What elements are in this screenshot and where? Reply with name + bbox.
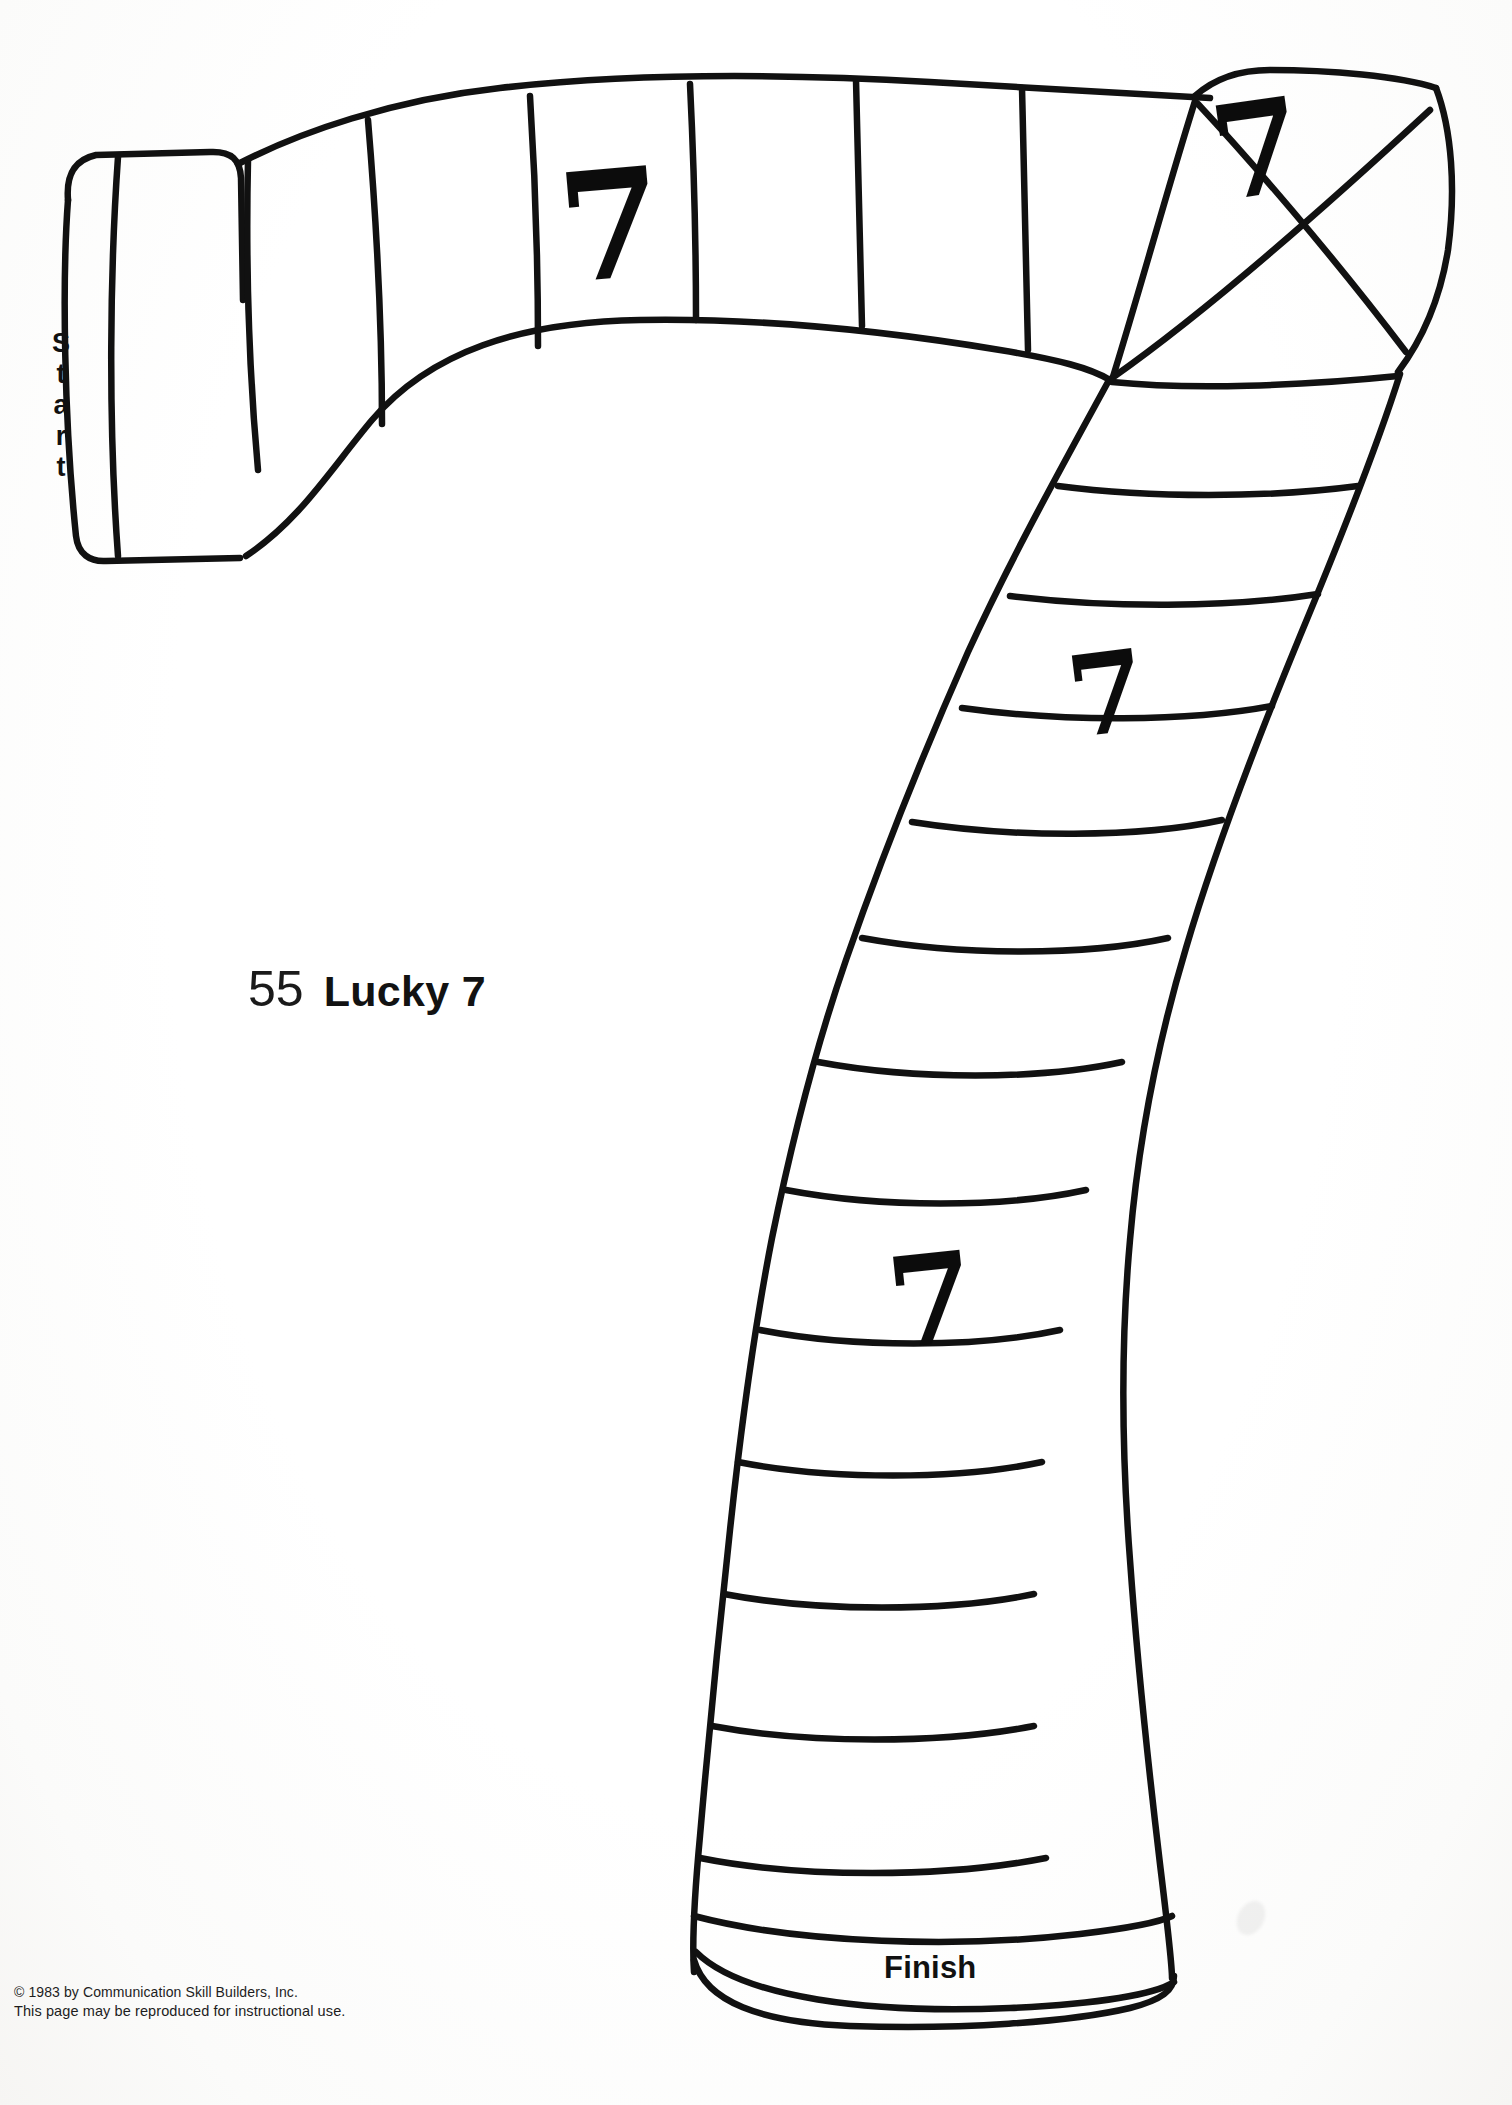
start-letter-2: t <box>57 361 66 392</box>
start-label: S t a r t <box>52 330 70 485</box>
rung-right-10 <box>738 1462 1042 1476</box>
rung-top-3 <box>690 84 696 320</box>
reproduction-notice: This page may be reproduced for instruct… <box>14 2002 345 2021</box>
page-number: 55 <box>248 960 304 1018</box>
top-band-lower-edge <box>246 320 1110 556</box>
rung-finish-line <box>694 1916 1172 1942</box>
rung-right-13 <box>700 1858 1046 1873</box>
start-tab-inner-line-2 <box>247 160 258 470</box>
rung-right-11 <box>724 1594 1034 1608</box>
rung-right-5 <box>912 820 1222 834</box>
rung-right-6 <box>862 938 1168 952</box>
rung-right-12 <box>712 1726 1034 1740</box>
rung-right-1 <box>1112 376 1398 386</box>
start-letter-1: S <box>52 330 70 361</box>
start-letter-4: r <box>56 423 67 454</box>
lucky-seven-marker-1: 7 <box>553 146 670 305</box>
rung-right-2 <box>1058 486 1358 495</box>
rung-top-2 <box>530 96 538 346</box>
copyright-notice: © 1983 by Communication Skill Builders, … <box>14 1983 345 2002</box>
rung-right-7 <box>818 1062 1122 1076</box>
lucky-seven-marker-3: 7 <box>1061 634 1152 755</box>
lucky-seven-marker-4: 7 <box>882 1234 982 1367</box>
start-letter-3: a <box>53 392 68 423</box>
right-column-right-edge <box>1123 374 1400 1978</box>
start-tab-left-edge <box>65 200 240 561</box>
start-tab-outline <box>68 152 243 300</box>
rung-top-1 <box>368 120 382 424</box>
corner-left-edge <box>1112 98 1196 380</box>
start-letter-5: t <box>57 454 66 485</box>
worksheet-page: S t a r t 7 7 7 7 Finish 55 Lucky 7 © 19… <box>0 0 1512 2105</box>
rung-top-5 <box>1022 88 1028 350</box>
lucky-seven-marker-2: 7 <box>1203 79 1311 220</box>
rung-right-3 <box>1010 594 1318 605</box>
activity-title: Lucky 7 <box>324 967 486 1016</box>
rung-right-8 <box>786 1190 1086 1204</box>
page-title: 55 Lucky 7 <box>248 960 486 1018</box>
finish-label: Finish <box>884 1950 976 1986</box>
start-tab-inner-line-1 <box>111 157 118 556</box>
game-board-path <box>0 0 1512 2105</box>
top-band-upper-edge <box>238 76 1210 164</box>
footer: © 1983 by Communication Skill Builders, … <box>14 1983 345 2021</box>
rung-top-4 <box>856 80 862 326</box>
